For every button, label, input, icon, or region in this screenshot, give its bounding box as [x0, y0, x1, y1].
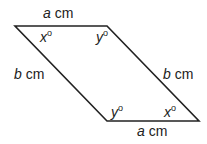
angle-label-bottom-left: yo	[111, 104, 123, 119]
degree-symbol: o	[103, 28, 108, 38]
angle-bottom-right-var: x	[164, 104, 171, 120]
side-top-unit: cm	[51, 5, 74, 21]
degree-symbol: o	[171, 103, 176, 113]
angle-label-top-left: xo	[40, 29, 52, 44]
side-label-bottom: a cm	[137, 124, 167, 138]
angle-top-left-var: x	[40, 29, 47, 45]
side-label-top: a cm	[43, 6, 73, 20]
side-top-var: a	[43, 5, 51, 21]
side-right-var: b	[163, 66, 171, 82]
angle-label-top-right: yo	[96, 29, 108, 44]
degree-symbol: o	[47, 28, 52, 38]
side-bottom-unit: cm	[145, 123, 168, 139]
angle-top-right-var: y	[96, 29, 103, 45]
degree-symbol: o	[118, 103, 123, 113]
side-right-unit: cm	[171, 66, 194, 82]
side-label-left: b cm	[14, 67, 44, 81]
side-left-unit: cm	[22, 66, 45, 82]
side-left-var: b	[14, 66, 22, 82]
angle-label-bottom-right: xo	[164, 104, 176, 119]
side-label-right: b cm	[163, 67, 193, 81]
angle-bottom-left-var: y	[111, 104, 118, 120]
side-bottom-var: a	[137, 123, 145, 139]
